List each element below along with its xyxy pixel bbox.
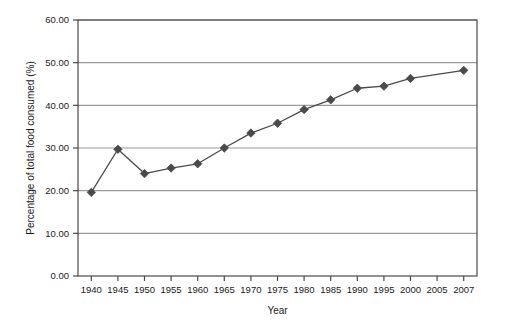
line-chart: 0.0010.0020.0030.0040.0050.0060.00194019… — [0, 0, 505, 324]
x-axis-label-1940: 1940 — [81, 284, 102, 295]
chart-canvas: 0.0010.0020.0030.0040.0050.0060.00194019… — [0, 0, 505, 324]
x-axis-label-1970: 1970 — [240, 284, 261, 295]
x-axis-title: Year — [267, 305, 288, 316]
y-axis-label-60.00: 60.00 — [45, 14, 69, 25]
x-axis-label-2005: 2005 — [427, 284, 448, 295]
data-point-marker — [300, 105, 308, 113]
x-axis-label-2007: 2007 — [453, 284, 474, 295]
data-point-marker — [460, 66, 468, 74]
x-axis-label-1955: 1955 — [161, 284, 182, 295]
y-axis-title: Percentage of total food consumed (%) — [25, 61, 36, 234]
x-axis-label-1965: 1965 — [214, 284, 235, 295]
data-point-marker — [327, 96, 335, 104]
data-point-marker — [406, 74, 414, 82]
x-axis-label-1995: 1995 — [373, 284, 394, 295]
x-axis-label-1975: 1975 — [267, 284, 288, 295]
x-axis-label-1950: 1950 — [134, 284, 155, 295]
data-point-marker — [167, 164, 175, 172]
y-axis-label-20.00: 20.00 — [45, 185, 69, 196]
data-point-marker — [87, 188, 95, 196]
x-tick-labels: 1940194519501955196019651970197519801985… — [81, 284, 475, 295]
y-axis-label-10.00: 10.00 — [45, 228, 69, 239]
x-axis-label-1960: 1960 — [187, 284, 208, 295]
x-axis-label-1945: 1945 — [107, 284, 128, 295]
data-point-marker — [380, 82, 388, 90]
y-axis-label-50.00: 50.00 — [45, 57, 69, 68]
x-axis-label-2000: 2000 — [400, 284, 421, 295]
x-axis-label-1985: 1985 — [320, 284, 341, 295]
x-axis-label-1990: 1990 — [347, 284, 368, 295]
x-tick-marks — [91, 276, 463, 281]
y-tick-labels: 0.0010.0020.0030.0040.0050.0060.00 — [45, 14, 69, 281]
y-tick-marks — [73, 20, 78, 276]
y-axis-label-0.00: 0.00 — [51, 270, 70, 281]
data-point-marker — [194, 160, 202, 168]
x-axis-label-1980: 1980 — [294, 284, 315, 295]
data-point-marker — [273, 119, 281, 127]
data-series-percentage-of-total-food-consumed — [87, 66, 468, 196]
y-axis-label-40.00: 40.00 — [45, 100, 69, 111]
data-point-marker — [353, 84, 361, 92]
y-axis-label-30.00: 30.00 — [45, 142, 69, 153]
data-point-marker — [220, 144, 228, 152]
data-point-marker — [247, 129, 255, 137]
